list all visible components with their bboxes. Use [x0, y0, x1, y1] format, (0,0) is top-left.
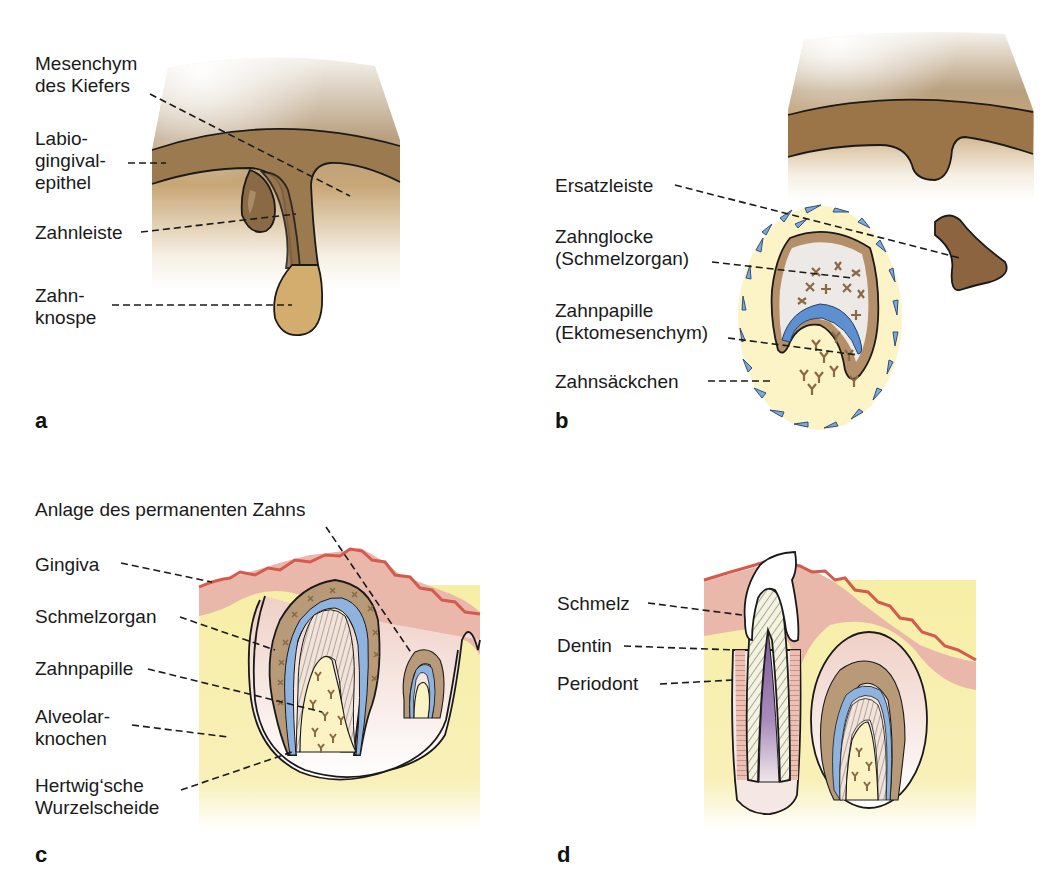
- label-mesenchym-2: des Kiefers: [35, 75, 130, 96]
- label-ersatzleiste: Ersatzleiste: [555, 175, 653, 196]
- label-anlage-permanent: Anlage des permanenten Zahns: [35, 499, 305, 520]
- tooth-development-figure: Mesenchym des Kiefers Labio- gingival- e…: [0, 0, 1043, 896]
- svg-text:Dentin: Dentin: [557, 635, 612, 656]
- svg-text:Wurzelscheide: Wurzelscheide: [35, 797, 159, 818]
- label-schmelzorgan-b: (Schmelzorgan): [555, 248, 689, 269]
- svg-text:Gingiva: Gingiva: [35, 554, 100, 575]
- svg-text:Schmelzorgan: Schmelzorgan: [35, 606, 156, 627]
- successional-lamina: [935, 215, 1007, 290]
- svg-text:Zahnpapille: Zahnpapille: [555, 300, 653, 321]
- svg-text:Labio-: Labio-: [35, 128, 88, 149]
- label-zahnpapille-c: Zahnpapille: [35, 658, 133, 679]
- label-ektomesenchym: (Ektomesenchym): [555, 322, 708, 343]
- label-mesenchym: Mesenchym: [35, 53, 137, 74]
- label-labio-2: gingival-: [35, 150, 106, 171]
- label-zahnpapille-b: Zahnpapille: [555, 300, 653, 321]
- svg-text:Ersatzleiste: Ersatzleiste: [555, 175, 653, 196]
- svg-text:(Ektomesenchym): (Ektomesenchym): [555, 322, 708, 343]
- label-periodont: Periodont: [557, 673, 639, 694]
- svg-text:Zahn-: Zahn-: [35, 285, 85, 306]
- label-schmelzorgan-c: Schmelzorgan: [35, 606, 156, 627]
- panel-letter-a: a: [35, 408, 48, 433]
- label-alveolar: Alveolar-: [35, 706, 110, 727]
- svg-text:Mesenchym: Mesenchym: [35, 53, 137, 74]
- svg-text:Alveolar-: Alveolar-: [35, 706, 110, 727]
- svg-text:Zahnsäckchen: Zahnsäckchen: [555, 371, 679, 392]
- svg-text:knochen: knochen: [35, 728, 107, 749]
- panel-c: Anlage des permanenten Zahns Gingiva Sch…: [35, 499, 480, 867]
- label-zahnknospe: Zahn-: [35, 285, 85, 306]
- label-labio: Labio-: [35, 128, 88, 149]
- label-zahnglocke: Zahnglocke: [555, 226, 653, 247]
- panel-letter-d: d: [557, 842, 570, 867]
- svg-text:Schmelz: Schmelz: [557, 593, 630, 614]
- panel-b: Ersatzleiste Zahnglocke (Schmelzorgan) Z…: [555, 32, 1034, 433]
- label-zahnsaeckchen: Zahnsäckchen: [555, 371, 679, 392]
- svg-text:Periodont: Periodont: [557, 673, 639, 694]
- label-gingiva: Gingiva: [35, 554, 100, 575]
- panel-a: Mesenchym des Kiefers Labio- gingival- e…: [35, 53, 400, 433]
- label-zahnknospe-2: knospe: [35, 307, 96, 328]
- svg-text:Anlage des permanenten Zahns: Anlage des permanenten Zahns: [35, 499, 305, 520]
- svg-text:Zahnglocke: Zahnglocke: [555, 226, 653, 247]
- developing-tooth-d: [811, 632, 927, 808]
- panel-letter-c: c: [35, 842, 47, 867]
- svg-text:gingival-: gingival-: [35, 150, 106, 171]
- svg-text:Zahnpapille: Zahnpapille: [35, 658, 133, 679]
- label-wurzelscheide: Wurzelscheide: [35, 797, 159, 818]
- label-zahnleiste: Zahnleiste: [35, 222, 123, 243]
- svg-text:knospe: knospe: [35, 307, 96, 328]
- permanent-tooth-germ: [403, 650, 444, 718]
- label-knochen: knochen: [35, 728, 107, 749]
- svg-text:epithel: epithel: [35, 172, 91, 193]
- panel-letter-b: b: [555, 408, 568, 433]
- label-dentin: Dentin: [557, 635, 612, 656]
- svg-text:Hertwig‘sche: Hertwig‘sche: [35, 775, 144, 796]
- svg-text:Zahnleiste: Zahnleiste: [35, 222, 123, 243]
- svg-text:des Kiefers: des Kiefers: [35, 75, 130, 96]
- label-schmelz: Schmelz: [557, 593, 630, 614]
- panel-d: Schmelz Dentin Periodont d: [557, 552, 976, 867]
- label-hertwig: Hertwig‘sche: [35, 775, 144, 796]
- label-labio-3: epithel: [35, 172, 91, 193]
- svg-text:(Schmelzorgan): (Schmelzorgan): [555, 248, 689, 269]
